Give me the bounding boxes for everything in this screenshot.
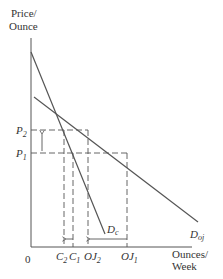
y-axis-label-line2: Ounce — [9, 20, 38, 32]
c1-label: C1 — [69, 250, 80, 265]
doj-curve — [34, 97, 198, 222]
demand-diagram: Price/ Ounce P2 P1 Dc Doj 0 C2 C1 OJ2 OJ… — [0, 0, 223, 279]
oj2-label: OJ2 — [84, 250, 101, 265]
oj1-label: OJ1 — [121, 250, 138, 265]
x-axis-label-line2: Week — [172, 260, 197, 272]
p1-label: P1 — [15, 147, 27, 162]
dc-label: Dc — [106, 223, 119, 237]
y-axis-label-line1: Price/ — [11, 7, 38, 19]
origin-label: 0 — [25, 253, 31, 265]
c2-label: C2 — [56, 250, 67, 265]
x-axis-label-line1: Ounces/ — [172, 248, 209, 260]
doj-label: Doj — [189, 228, 205, 242]
p2-label: P2 — [15, 124, 27, 139]
